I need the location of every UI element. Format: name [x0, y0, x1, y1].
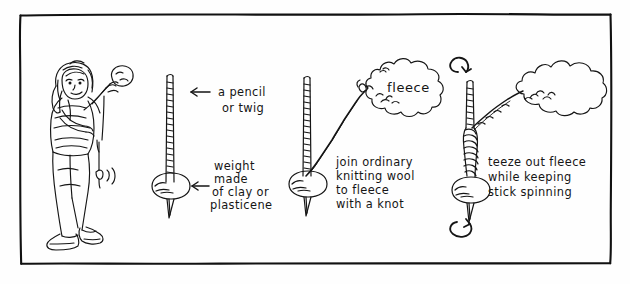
label-teeze-line1: teeze out fleece: [488, 155, 586, 169]
label-join-line1: join ordinary: [335, 155, 413, 169]
label-weight-line3: of clay or: [212, 185, 269, 199]
label-join-line3: to fleece: [336, 183, 389, 197]
illustration-canvas: a pencil or twig weight made of clay or …: [0, 0, 630, 284]
label-teeze-line2: while keeping: [488, 170, 572, 184]
label-fleece: fleece: [387, 80, 430, 95]
label-pencil-line2: or twig: [222, 101, 264, 115]
spinning-illustration: a pencil or twig weight made of clay or …: [0, 0, 630, 284]
label-pencil-line1: a pencil: [218, 85, 266, 99]
background: [0, 0, 630, 284]
label-weight-line4: plasticene: [210, 198, 272, 212]
label-teeze-line3: stick spinning: [488, 185, 572, 199]
label-join-line4: with a knot: [336, 197, 404, 211]
label-weight-line2: made: [214, 172, 248, 186]
label-weight-line1: weight: [214, 159, 255, 173]
label-join-line2: knitting wool: [336, 169, 415, 183]
